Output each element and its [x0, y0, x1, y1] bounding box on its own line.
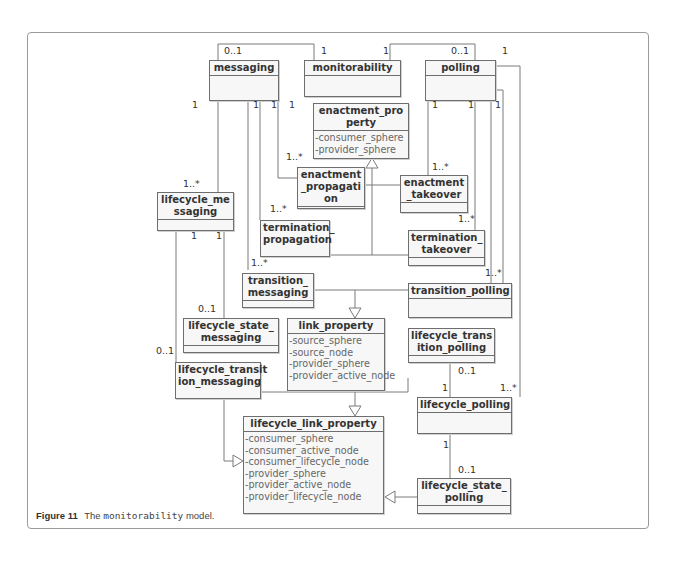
class-name: transition_ messaging	[243, 274, 313, 301]
multiplicity-label: 1..*	[286, 152, 303, 162]
multiplicity-label: 1	[191, 231, 197, 241]
class-name: transition_polling	[409, 284, 511, 299]
class-attributes: -consumer_sphere -provider_sphere	[314, 131, 408, 157]
multiplicity-label: 0..1	[198, 304, 216, 314]
multiplicity-label: 1..*	[270, 204, 287, 214]
attribute: -provider_sphere	[289, 358, 383, 370]
class-name: enactment _propagati on	[298, 168, 364, 207]
class-transition-messaging[interactable]: transition_ messaging	[242, 273, 314, 308]
class-enactment-property[interactable]: enactment_pro perty -consumer_sphere -pr…	[313, 103, 409, 159]
multiplicity-label: 1	[502, 46, 508, 56]
class-link-property[interactable]: link_property -source_sphere -source_nod…	[287, 318, 385, 391]
caption-code: monitorability	[103, 510, 183, 521]
multiplicity-label: 1	[442, 383, 448, 393]
class-enactment-takeover[interactable]: enactment _takeover	[400, 175, 468, 213]
class-messaging[interactable]: messaging	[209, 60, 279, 101]
attribute: -consumer_active_node	[245, 445, 382, 457]
class-name: messaging	[210, 61, 278, 76]
multiplicity-label: 1	[321, 46, 327, 56]
class-name: polling	[426, 61, 495, 76]
multiplicity-label: 1..*	[458, 214, 475, 224]
multiplicity-label: 1	[443, 440, 449, 450]
class-name: enactment_pro perty	[314, 104, 408, 131]
class-transition-polling[interactable]: transition_polling	[408, 283, 512, 318]
attribute: -provider_sphere	[245, 468, 382, 480]
class-attributes: -source_sphere -source_node -provider_sp…	[288, 334, 384, 383]
multiplicity-label: 1	[289, 100, 295, 110]
class-lifecycle-state-polling[interactable]: lifecycle_state_ polling	[417, 478, 511, 514]
class-name: lifecycle_polling	[418, 398, 511, 413]
class-lifecycle-link-property[interactable]: lifecycle_link_property -consumer_sphere…	[243, 416, 384, 514]
class-name: lifecycle_link_property	[244, 417, 383, 432]
class-lifecycle-messaging[interactable]: lifecycle_me ssaging	[157, 192, 234, 231]
multiplicity-label: 1	[271, 100, 277, 110]
attribute: -consumer_sphere	[315, 132, 407, 144]
multiplicity-label: 1	[468, 100, 474, 110]
multiplicity-label: 0..1	[451, 46, 469, 56]
figure-caption: Figure 11 The monitorability model.	[36, 510, 214, 521]
class-name: monitorability	[305, 61, 400, 76]
multiplicity-label: 0..1	[156, 346, 174, 356]
multiplicity-label: 1..*	[500, 383, 517, 393]
class-name: link_property	[288, 319, 384, 334]
figure-label: Figure 11	[36, 510, 78, 521]
class-termination-propagation[interactable]: termination_ propagation	[260, 220, 330, 257]
attribute: -consumer_sphere	[245, 433, 382, 445]
class-name: lifecycle_transit ion_messaging	[176, 363, 260, 389]
attribute: -consumer_lifecycle_node	[245, 456, 382, 468]
class-termination-takeover[interactable]: termination_ takeover	[408, 230, 485, 266]
attribute: -provider_sphere	[315, 144, 407, 156]
class-name: lifecycle_state_ polling	[418, 479, 510, 506]
class-lifecycle-transition-messaging[interactable]: lifecycle_transit ion_messaging	[175, 362, 261, 399]
attribute: -source_node	[289, 347, 383, 359]
multiplicity-label: 1	[383, 46, 389, 56]
multiplicity-label: 0..1	[224, 46, 242, 56]
class-polling[interactable]: polling	[425, 60, 496, 101]
multiplicity-label: 0..1	[458, 366, 476, 376]
caption-suffix: model.	[186, 510, 215, 521]
class-lifecycle-transition-polling[interactable]: lifecycle_trans ition_polling	[408, 328, 495, 363]
attribute: -provider_active_node	[245, 479, 382, 491]
multiplicity-label: 1..*	[432, 162, 449, 172]
class-enactment-propagation[interactable]: enactment _propagati on	[297, 167, 365, 209]
class-attributes: -consumer_sphere -consumer_active_node -…	[244, 432, 383, 504]
class-name: lifecycle_trans ition_polling	[409, 329, 494, 356]
multiplicity-label: 1..*	[183, 179, 200, 189]
multiplicity-label: 1..*	[251, 258, 268, 268]
multiplicity-label: 1	[192, 100, 198, 110]
multiplicity-label: 1..*	[485, 268, 502, 278]
class-name: termination_ takeover	[409, 231, 484, 258]
caption-prefix: The	[84, 510, 100, 521]
class-name: lifecycle_me ssaging	[158, 193, 233, 220]
class-lifecycle-polling[interactable]: lifecycle_polling	[417, 397, 512, 434]
class-monitorability[interactable]: monitorability	[304, 60, 401, 97]
attribute: -provider_active_node	[289, 370, 383, 382]
multiplicity-label: 1	[253, 100, 259, 110]
attribute: -provider_lifecycle_node	[245, 491, 382, 503]
multiplicity-label: 1	[495, 100, 501, 110]
class-name: termination_ propagation	[261, 221, 329, 247]
multiplicity-label: 1	[432, 100, 438, 110]
class-lifecycle-state-messaging[interactable]: lifecycle_state_ messaging	[183, 318, 279, 353]
multiplicity-label: 0..1	[458, 465, 476, 475]
class-name: enactment _takeover	[401, 176, 467, 203]
multiplicity-label: 1	[216, 231, 222, 241]
attribute: -source_sphere	[289, 335, 383, 347]
class-name: lifecycle_state_ messaging	[184, 319, 278, 346]
